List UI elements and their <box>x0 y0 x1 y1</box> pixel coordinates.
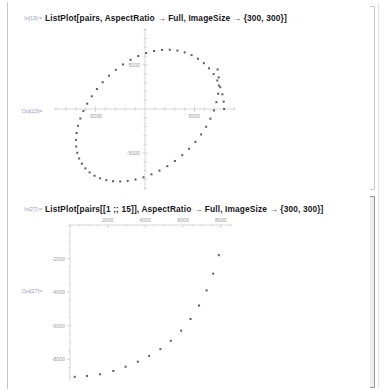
data-point <box>184 51 186 53</box>
data-point <box>145 52 147 54</box>
data-point <box>77 125 79 127</box>
plot-curve-scatter: 2000400060008000-2000-4000-6000-8000 <box>48 215 238 387</box>
data-point <box>82 110 84 112</box>
data-point <box>79 117 81 119</box>
data-point <box>112 370 114 372</box>
data-point <box>205 126 207 128</box>
data-point <box>102 81 104 83</box>
data-point <box>108 75 110 77</box>
output-label-1: Out[13]= <box>12 108 42 114</box>
data-point <box>81 163 83 165</box>
input-code-1[interactable]: ListPlot[pairs, AspectRatio → Full, Imag… <box>45 13 287 23</box>
notebook-right-rule <box>378 2 379 389</box>
data-point <box>161 49 163 51</box>
data-point <box>130 59 132 61</box>
input-label-2: In[27]:= <box>16 206 42 212</box>
data-point <box>153 50 155 52</box>
data-point <box>212 273 214 275</box>
data-point <box>219 86 221 88</box>
plot-circle-scatter: -500050005000-5000 <box>50 24 240 194</box>
data-point <box>119 180 121 182</box>
data-point <box>223 101 225 103</box>
cell-bracket-group-2[interactable] <box>370 196 375 388</box>
data-point <box>75 139 77 141</box>
x-tick-label: 6000 <box>177 217 189 223</box>
data-point <box>217 93 219 95</box>
y-tick-label: -8000 <box>52 356 65 362</box>
data-point <box>78 157 80 159</box>
x-tick-label: -5000 <box>89 113 102 119</box>
data-point <box>223 108 225 110</box>
data-point <box>105 179 107 181</box>
data-point <box>84 167 86 169</box>
y-tick-label: -5000 <box>127 150 140 156</box>
data-point <box>86 103 88 105</box>
y-tick-label: -6000 <box>52 323 65 329</box>
data-point <box>150 173 152 175</box>
data-point <box>159 348 161 350</box>
data-point <box>148 355 150 357</box>
data-point <box>137 55 139 57</box>
data-point <box>86 375 88 377</box>
notebook-left-rule <box>7 2 8 389</box>
data-point <box>91 95 93 97</box>
data-point <box>208 67 210 69</box>
data-point <box>99 373 101 375</box>
data-point <box>203 62 205 64</box>
x-tick-label: 8000 <box>215 217 227 223</box>
data-point <box>215 101 217 103</box>
data-point <box>76 132 78 134</box>
x-tick-label: 2000 <box>102 217 114 223</box>
data-point <box>112 180 114 182</box>
data-point <box>180 330 182 332</box>
data-point <box>122 63 124 65</box>
data-point <box>170 340 172 342</box>
data-point <box>188 148 190 150</box>
x-tick-label: 4000 <box>140 217 152 223</box>
y-tick-label: -4000 <box>52 289 65 295</box>
data-point <box>166 165 168 167</box>
data-point <box>115 69 117 71</box>
y-tick-label: 5000 <box>128 62 140 68</box>
data-point <box>217 68 219 70</box>
output-label-2: Out[27]= <box>12 288 42 294</box>
notebook-canvas: In[13]:=ListPlot[pairs, AspectRatio → Fu… <box>0 0 386 391</box>
plot-curve-svg: 2000400060008000-2000-4000-6000-8000 <box>48 215 238 387</box>
data-point <box>213 73 215 75</box>
data-point <box>99 177 101 179</box>
data-point <box>218 85 220 87</box>
data-point <box>198 305 200 307</box>
data-point <box>142 176 144 178</box>
plot-circle-svg: -500050005000-5000 <box>50 24 240 194</box>
data-point <box>137 361 139 363</box>
data-point <box>218 254 220 256</box>
data-point <box>96 88 98 90</box>
input-code-2[interactable]: ListPlot[pairs[[1 ;; 15]], AspectRatio →… <box>45 204 324 214</box>
y-tick-label: -2000 <box>52 256 65 262</box>
data-point <box>190 318 192 320</box>
data-point <box>174 160 176 162</box>
data-point <box>169 49 171 51</box>
data-point <box>134 179 136 181</box>
data-point <box>125 366 127 368</box>
data-point <box>75 146 77 148</box>
data-point <box>181 154 183 156</box>
data-point <box>127 180 129 182</box>
data-point <box>94 175 96 177</box>
data-point <box>89 171 91 173</box>
x-tick-label: 5000 <box>189 113 201 119</box>
data-point <box>191 54 193 56</box>
data-point <box>197 58 199 60</box>
data-point <box>176 50 178 52</box>
data-point <box>218 76 220 78</box>
data-point <box>74 376 76 378</box>
data-point <box>206 289 208 291</box>
data-point <box>216 79 218 81</box>
data-point <box>76 152 78 154</box>
data-point <box>221 93 223 95</box>
data-point <box>200 133 202 135</box>
data-point <box>158 170 160 172</box>
cell-bracket-group-1[interactable] <box>370 6 375 190</box>
input-label-1: In[13]:= <box>16 15 42 21</box>
data-point <box>213 110 215 112</box>
